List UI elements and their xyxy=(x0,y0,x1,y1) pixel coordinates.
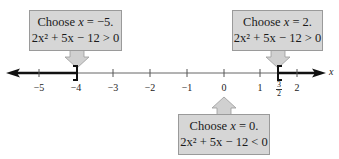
callout-middle: Choose x = 0. 2x² + 5x − 12 < 0 xyxy=(178,114,270,155)
callout-inequality-text: 2x² + 5x − 12 > 0 xyxy=(30,30,121,46)
tick-label: −5 xyxy=(34,82,45,93)
tick-label: 0 xyxy=(222,82,227,93)
tick-label-fraction: 3 2 xyxy=(276,81,282,98)
callout-middle-arrow xyxy=(212,97,236,115)
tick-label: −2 xyxy=(145,82,156,93)
tick-label: −4 xyxy=(71,82,82,93)
callout-choose-text: Choose x = 2. xyxy=(233,14,322,30)
callout-inequality-text: 2x² + 5x − 12 > 0 xyxy=(233,30,322,46)
tick-label: −3 xyxy=(108,82,119,93)
axis-variable-label: x xyxy=(329,66,333,77)
tick-label: −1 xyxy=(182,82,193,93)
fraction-denominator: 2 xyxy=(276,90,282,98)
tick-label: 2 xyxy=(295,82,300,93)
callout-choose-text: Choose x = 0. xyxy=(179,118,269,134)
callout-right: Choose x = 2. 2x² + 5x − 12 > 0 xyxy=(232,10,323,51)
tick-label: 1 xyxy=(258,82,263,93)
callout-inequality-text: 2x² + 5x − 12 < 0 xyxy=(179,134,269,150)
callout-left: Choose x = −5. 2x² + 5x − 12 > 0 xyxy=(29,10,122,51)
callout-choose-text: Choose x = −5. xyxy=(30,14,121,30)
